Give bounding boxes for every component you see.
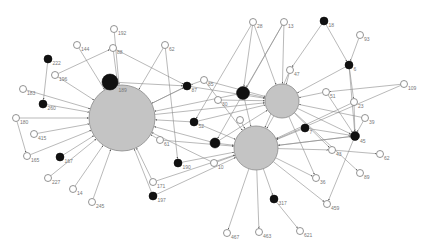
black-node-circle[interactable] [210,138,220,148]
white-node-circle[interactable] [20,86,27,93]
node-7[interactable]: 7 [301,124,313,135]
node-39[interactable]: 39 [362,115,375,125]
edge-51-45 [328,95,352,132]
black-node-circle[interactable] [174,159,182,167]
node-61[interactable]: 61 [157,137,170,147]
node-192[interactable]: 192 [111,26,127,36]
black-node-circle[interactable] [183,82,191,90]
white-node-circle[interactable] [74,42,81,49]
black-node-circle[interactable] [149,192,157,200]
white-node-circle[interactable] [13,115,20,122]
hub-node-circle[interactable] [265,84,299,118]
black-node-circle[interactable] [190,118,198,126]
white-node-circle[interactable] [401,81,408,88]
white-node-circle[interactable] [89,199,96,206]
black-node-circle[interactable] [345,61,353,69]
black-node-circle[interactable] [320,17,328,25]
node-459[interactable]: 459 [324,201,340,211]
white-node-circle[interactable] [237,117,244,124]
node-167[interactable]: 167 [56,153,73,164]
node-hubA[interactable] [89,85,155,151]
white-node-circle[interactable] [150,179,157,186]
node-36[interactable]: 36 [313,175,326,185]
node-label: 7 [310,129,313,135]
hub-node-circle[interactable] [89,85,155,151]
node-85[interactable]: 85 [201,77,214,87]
node-30[interactable]: 30 [215,97,228,107]
white-node-circle[interactable] [287,67,294,74]
node-6[interactable]: 6 [345,61,357,72]
white-node-circle[interactable] [24,153,31,160]
white-node-circle[interactable] [211,160,218,167]
node-190[interactable]: 190 [174,159,191,170]
white-node-circle[interactable] [250,19,257,26]
node-88[interactable]: 88 [110,45,123,55]
node-43[interactable]: 43 [329,147,342,157]
node-28[interactable]: 28 [250,19,263,29]
white-node-circle[interactable] [329,147,336,154]
white-node-circle[interactable] [351,99,358,106]
node-463[interactable]: 463 [256,229,272,239]
white-node-circle[interactable] [31,131,38,138]
node-621[interactable]: 621 [297,228,313,238]
white-node-circle[interactable] [256,229,263,236]
white-node-circle[interactable] [281,19,288,26]
white-node-circle[interactable] [70,186,77,193]
node-13[interactable]: 13 [281,19,294,29]
white-node-circle[interactable] [224,230,231,237]
node-62[interactable]: 62 [162,42,175,52]
node-467[interactable]: 467 [224,230,240,240]
black-node-circle[interactable] [44,55,52,63]
white-node-circle[interactable] [313,175,320,182]
black-large-node-circle[interactable] [237,87,250,100]
node-109[interactable]: 109 [401,81,417,91]
white-node-circle[interactable] [45,175,52,182]
black-node-circle[interactable] [39,100,47,108]
node-183[interactable]: 183 [20,86,36,96]
black-node-circle[interactable] [270,195,278,203]
node-245[interactable]: 245 [89,199,105,209]
node-bigblack[interactable] [237,87,250,100]
node-label: 13 [288,23,294,29]
white-node-circle[interactable] [324,201,331,208]
node-mid2[interactable] [210,138,220,148]
white-node-circle[interactable] [357,32,364,39]
node-w2[interactable] [237,117,244,124]
node-52[interactable]: 52 [190,118,204,129]
node-87[interactable]: 87 [183,82,197,93]
white-node-circle[interactable] [215,97,222,104]
node-93[interactable]: 93 [357,32,370,42]
node-label: 463 [263,233,272,239]
white-node-circle[interactable] [377,151,384,158]
white-node-circle[interactable] [111,26,118,33]
node-260[interactable]: 260 [39,100,56,111]
node-227[interactable]: 227 [45,175,61,185]
node-51[interactable]: 51 [323,89,336,99]
node-89[interactable]: 89 [357,170,370,180]
white-node-circle[interactable] [357,170,364,177]
white-node-circle[interactable] [110,45,117,52]
white-node-circle[interactable] [162,42,169,49]
node-144[interactable]: 144 [74,42,90,52]
node-hubB[interactable] [265,84,299,118]
node-hubC[interactable] [234,126,278,170]
node-62[interactable]: 62 [377,151,390,161]
white-node-circle[interactable] [201,77,208,84]
node-222[interactable]: 222 [44,55,61,66]
node-317[interactable]: 317 [270,195,287,206]
black-node-circle[interactable] [301,124,309,132]
black-node-circle[interactable] [56,153,64,161]
node-14[interactable]: 14 [70,186,83,196]
edge-hubB-36 [289,117,315,175]
white-node-circle[interactable] [52,72,59,79]
white-node-circle[interactable] [157,137,164,144]
hub-node-circle[interactable] [234,126,278,170]
node-171[interactable]: 171 [150,179,166,189]
white-node-circle[interactable] [362,115,369,122]
black-node-circle[interactable] [351,132,360,141]
edge-222-260 [43,63,47,100]
white-node-circle[interactable] [297,228,304,235]
white-node-circle[interactable] [323,89,330,96]
black-large-node-circle[interactable] [102,74,118,90]
node-180[interactable]: 180 [13,115,29,125]
